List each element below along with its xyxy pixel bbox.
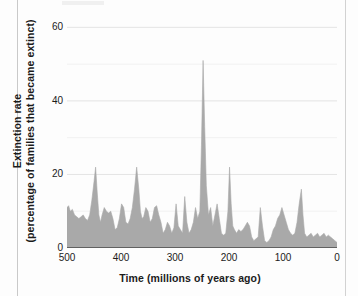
x-axis-tick-label: 100	[263, 252, 303, 263]
y-axis-tick-label: 60	[43, 22, 63, 32]
y-axis-tick-label: 40	[43, 96, 63, 106]
y-axis-tick-label: 20	[43, 169, 63, 179]
x-axis-tick-label: 0	[317, 252, 357, 263]
area-chart-svg	[67, 20, 337, 248]
extinction-rate-chart-figure: Extinction rate (percentage of families …	[0, 0, 358, 296]
x-axis-tick-labels: 5004003002001000	[0, 252, 358, 268]
x-axis-title: Time (millions of years ago)	[40, 272, 340, 284]
extinction-rate-area	[67, 60, 337, 248]
x-axis-tick-label: 300	[155, 252, 195, 263]
x-axis-tick-label: 500	[47, 252, 87, 263]
y-axis-title-line2: (percentage of families that became exti…	[24, 19, 37, 242]
y-axis-title-line1: Extinction rate	[11, 19, 24, 242]
x-axis-tick-label: 200	[209, 252, 249, 263]
scan-artifact	[62, 1, 104, 5]
x-axis-tick-label: 400	[101, 252, 141, 263]
plot-area	[67, 20, 337, 248]
